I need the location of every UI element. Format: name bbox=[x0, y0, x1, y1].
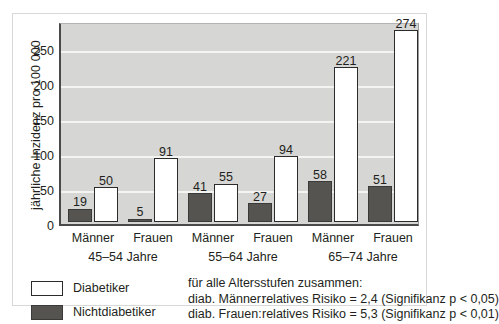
bar-value-label: 58 bbox=[313, 169, 327, 182]
bar: 94 bbox=[274, 156, 298, 222]
age-group-labels: 45–54 Jahre55–64 Jahre65–74 Jahre bbox=[61, 250, 419, 266]
legend-item: Diabetiker bbox=[31, 276, 181, 300]
bar-value-label: 221 bbox=[336, 55, 357, 68]
bar: 58 bbox=[308, 181, 332, 222]
footnote-line: diab. Frauen:relatives Risiko = 5,3 (Sig… bbox=[188, 307, 499, 323]
bar-value-label: 5 bbox=[137, 206, 144, 219]
bar-value-label: 19 bbox=[73, 196, 87, 209]
y-axis-tick-label: 250 bbox=[33, 44, 54, 58]
bar: 41 bbox=[188, 193, 212, 222]
bar-value-label: 55 bbox=[219, 171, 233, 184]
age-group-label: 45–54 Jahre bbox=[88, 250, 158, 264]
sex-label: Frauen bbox=[253, 231, 293, 245]
bar: 91 bbox=[154, 158, 178, 222]
bar-series-container: 1950591415527945822151274 bbox=[63, 25, 417, 222]
bar: 55 bbox=[214, 184, 238, 223]
bar-value-label: 94 bbox=[279, 144, 293, 157]
legend-label: Diabetiker bbox=[73, 281, 129, 295]
sex-label: Männer bbox=[192, 231, 234, 245]
bar: 221 bbox=[334, 67, 358, 222]
bar-value-label: 50 bbox=[99, 175, 113, 188]
footnote-heading-text: für alle Altersstufen zusammen: bbox=[188, 276, 362, 292]
bar: 274 bbox=[394, 30, 418, 222]
sex-label: Frauen bbox=[373, 231, 413, 245]
footnote-key: diab. Männer: bbox=[188, 292, 262, 308]
y-axis-tick-label: 200 bbox=[33, 79, 54, 93]
legend-swatch bbox=[31, 305, 63, 320]
footnote-line: diab. Männer:relatives Risiko = 2,4 (Sig… bbox=[188, 292, 499, 308]
chart-figure: jährliche Inzidenz pro 100 000 195059141… bbox=[12, 13, 427, 306]
bar-value-label: 41 bbox=[193, 181, 207, 194]
bar: 19 bbox=[68, 209, 92, 222]
bar-value-label: 274 bbox=[396, 18, 417, 31]
y-axis-tick-label: 150 bbox=[33, 114, 54, 128]
bar: 27 bbox=[248, 203, 272, 222]
footnote-text: relatives Risiko = 5,3 (Signifikanz p < … bbox=[262, 307, 499, 323]
bar-value-label: 51 bbox=[373, 174, 387, 187]
y-axis-tick-label: 50 bbox=[40, 184, 54, 198]
sex-labels: MännerFrauenMännerFrauenMännerFrauen bbox=[61, 231, 419, 247]
bar: 51 bbox=[368, 186, 392, 222]
chart-footnote: für alle Altersstufen zusammen: diab. Mä… bbox=[188, 276, 499, 323]
legend-item: Nichtdiabetiker bbox=[31, 300, 181, 324]
bar: 5 bbox=[128, 219, 152, 223]
footnote-heading: für alle Altersstufen zusammen: bbox=[188, 276, 499, 292]
chart-legend: DiabetikerNichtdiabetiker bbox=[31, 276, 181, 324]
legend-label: Nichtdiabetiker bbox=[73, 305, 156, 319]
y-axis-tick-label: 0 bbox=[47, 219, 54, 233]
sex-label: Frauen bbox=[133, 231, 173, 245]
y-axis-tick-label: 100 bbox=[33, 149, 54, 163]
bar: 50 bbox=[94, 187, 118, 222]
plot-area: 1950591415527945822151274 bbox=[59, 23, 419, 226]
age-group-label: 55–64 Jahre bbox=[208, 250, 278, 264]
plot-wrapper: 1950591415527945822151274 05010015020025… bbox=[59, 23, 419, 226]
sex-label: Männer bbox=[72, 231, 114, 245]
footnote-key: diab. Frauen: bbox=[188, 307, 262, 323]
footnote-text: relatives Risiko = 2,4 (Signifikanz p < … bbox=[262, 292, 499, 308]
footnote-rows: diab. Männer:relatives Risiko = 2,4 (Sig… bbox=[188, 292, 499, 323]
bar-value-label: 27 bbox=[253, 191, 267, 204]
legend-swatch bbox=[31, 281, 63, 296]
age-group-label: 65–74 Jahre bbox=[328, 250, 398, 264]
bar-value-label: 91 bbox=[159, 146, 173, 159]
sex-label: Männer bbox=[312, 231, 354, 245]
